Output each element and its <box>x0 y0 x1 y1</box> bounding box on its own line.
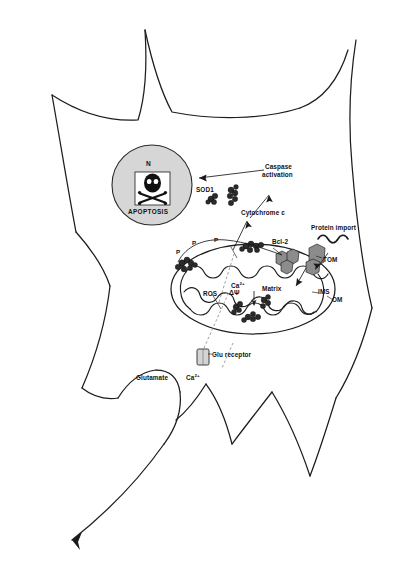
protein-import-label: Protein import <box>311 224 356 232</box>
om-label: OM <box>332 296 343 304</box>
glutamate-label: Glutamate <box>136 374 168 382</box>
extracellular-calcium-label: Ca2+ <box>186 373 200 382</box>
extracellular-calcium-charge: 2+ <box>194 373 199 378</box>
phospho-label-1: P <box>176 248 180 255</box>
ros-label: ROS <box>203 290 217 298</box>
bcl2-label: Bcl-2 <box>272 238 288 246</box>
phospho-label-3: P <box>214 236 218 243</box>
ims-label: IMS <box>318 288 330 296</box>
glutamate-receptor-channel <box>197 349 209 365</box>
sod1-label: SOD1 <box>196 186 214 194</box>
diagram-vectors <box>0 0 419 568</box>
nucleus-marker-label: N <box>146 160 151 168</box>
matrix-calcium-charge: 2+ <box>239 281 244 286</box>
glu-receptor-label: Glu receptor <box>212 351 251 359</box>
figure-canvas: N APOPTOSIS SOD1 Caspase activation Cyto… <box>0 0 419 568</box>
tom-label: TOM <box>323 256 337 264</box>
membrane-potential-label: ΔΨ <box>229 289 240 297</box>
matrix-label: Matrix <box>262 285 281 293</box>
caspase-activation-label-line1: Caspase <box>265 163 292 171</box>
caspase-activation-label-line2: activation <box>262 171 293 179</box>
cytochrome-c-label: Cytochrome c <box>241 209 285 217</box>
precursor-protein-squiggle <box>318 235 348 243</box>
apoptosis-label: APOPTOSIS <box>128 208 168 216</box>
phospho-label-2: P <box>192 239 196 246</box>
